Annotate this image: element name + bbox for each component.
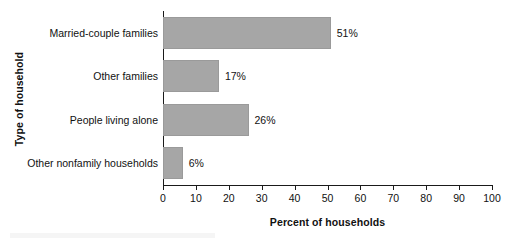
bar-chart: Type of household Married-couple familie…: [0, 0, 505, 242]
bar: [163, 147, 183, 179]
bar-value-label: 26%: [255, 114, 276, 126]
x-axis-tick-label: 80: [411, 192, 441, 204]
plot-area: 51% 17% 26% 6% 0102030405060708090100: [163, 11, 492, 185]
category-label: People living alone: [8, 114, 158, 126]
bar-value-label: 6%: [189, 157, 204, 169]
bar-value-label: 17%: [225, 70, 246, 82]
x-axis-tick: [393, 186, 394, 190]
x-axis-tick-label: 0: [148, 192, 178, 204]
category-label: Married-couple families: [8, 27, 158, 39]
category-label: Other nonfamily households: [8, 157, 158, 169]
x-axis-tick: [360, 186, 361, 190]
x-axis-title: Percent of households: [163, 216, 492, 228]
bar: [163, 60, 219, 92]
x-axis-tick: [459, 186, 460, 190]
bar-value-label: 51%: [337, 27, 358, 39]
x-axis-tick: [492, 186, 493, 190]
scan-artifact: [10, 233, 215, 238]
x-axis-tick-label: 50: [313, 192, 343, 204]
x-axis-tick: [262, 186, 263, 190]
x-axis-tick: [426, 186, 427, 190]
x-axis-tick-label: 70: [378, 192, 408, 204]
bar: [163, 104, 249, 136]
x-axis-tick: [229, 186, 230, 190]
x-axis-tick-label: 90: [444, 192, 474, 204]
x-axis-tick-label: 20: [214, 192, 244, 204]
x-axis-tick: [295, 186, 296, 190]
x-axis-tick-label: 10: [181, 192, 211, 204]
x-axis-tick-label: 60: [345, 192, 375, 204]
x-axis-tick-label: 40: [280, 192, 310, 204]
x-axis-tick: [196, 186, 197, 190]
bar: [163, 17, 331, 49]
category-label: Other families: [8, 70, 158, 82]
x-axis-tick: [163, 186, 164, 190]
y-axis-category-labels: Married-couple families Other families P…: [8, 11, 158, 185]
x-axis-tick: [328, 186, 329, 190]
x-axis-tick-label: 30: [247, 192, 277, 204]
x-axis-tick-label: 100: [477, 192, 505, 204]
